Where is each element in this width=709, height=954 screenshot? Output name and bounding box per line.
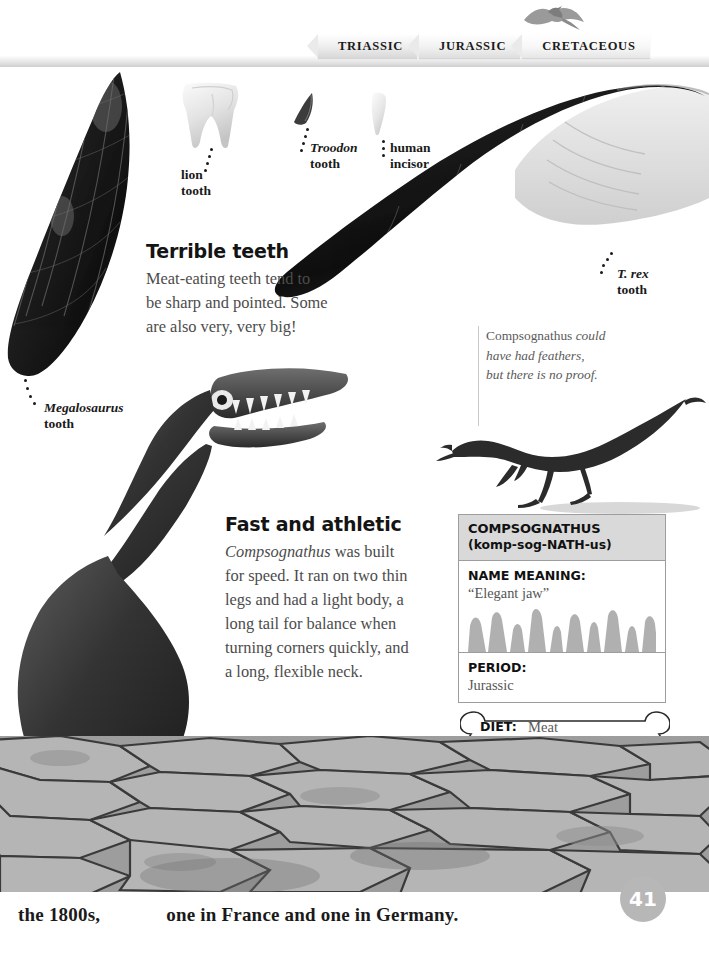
fact-period-label: PERIOD: bbox=[468, 660, 656, 675]
page-number-value: 41 bbox=[629, 887, 657, 911]
footer-running-text: the 1800s,one in France and one in Germa… bbox=[18, 904, 458, 926]
fact-box-header: COMPSOGNATHUS (komp-sog-NATH-us) bbox=[459, 515, 665, 561]
terrible-teeth-line-3: are also very, very big! bbox=[146, 315, 296, 339]
terrible-teeth-line-2: be sharp and pointed. Some bbox=[146, 291, 328, 315]
fast-athletic-l1rest: was built bbox=[331, 542, 395, 561]
terrible-teeth-heading: Terrible teeth bbox=[146, 240, 289, 262]
label-trex-genus: T. rex bbox=[617, 266, 649, 281]
fact-period: PERIOD: Jurassic bbox=[459, 652, 665, 702]
geologic-period-tabs: TRIASSIC JURASSIC CRETACEOUS bbox=[318, 34, 652, 58]
fast-athletic-line-6: a long, flexible neck. bbox=[225, 660, 363, 684]
footer-text-left: the 1800s, bbox=[18, 904, 100, 925]
cracked-earth-ground-photo bbox=[0, 736, 709, 892]
lion-tooth-photo bbox=[176, 82, 246, 150]
fact-box-pronunciation: (komp-sog-NATH-us) bbox=[468, 537, 656, 553]
fast-athletic-line-1: Compsognathus was built bbox=[225, 540, 394, 564]
fact-name-meaning-value: “Elegant jaw” bbox=[468, 583, 656, 602]
fact-diet-value: Meat bbox=[528, 719, 558, 736]
feather-caption-genus: Compsognathus bbox=[486, 328, 572, 343]
period-tab-cretaceous[interactable]: CRETACEOUS bbox=[522, 34, 649, 58]
page-number-badge: 41 bbox=[620, 876, 666, 922]
terrible-teeth-line-1: Meat-eating teeth tend to bbox=[146, 267, 310, 291]
label-lion-tooth: lion tooth bbox=[181, 167, 211, 199]
fact-period-value: Jurassic bbox=[468, 675, 656, 694]
fact-diet-label: DIET: bbox=[480, 719, 517, 734]
fast-athletic-line-4: long tail for balance when bbox=[225, 612, 396, 636]
page-footer: the 1800s,one in France and one in Germa… bbox=[0, 892, 709, 954]
feather-caption: Compsognathus could have had feathers, b… bbox=[486, 326, 686, 385]
period-tab-jurassic[interactable]: JURASSIC bbox=[419, 34, 520, 58]
fast-athletic-line-2: for speed. It ran on two thin bbox=[225, 564, 408, 588]
fast-athletic-heading: Fast and athletic bbox=[225, 513, 402, 535]
fact-name-meaning: NAME MEANING: “Elegant jaw” bbox=[459, 561, 665, 652]
label-lion-line1: lion bbox=[181, 167, 203, 182]
megalosaurus-tooth-photo bbox=[2, 66, 152, 376]
fact-name-meaning-label: NAME MEANING: bbox=[468, 568, 656, 583]
fast-athletic-line-3: legs and had a light body, a bbox=[225, 588, 404, 612]
fast-athletic-genus: Compsognathus bbox=[225, 542, 331, 561]
feather-caption-l1rest: could bbox=[572, 328, 605, 343]
compsognathus-small-illustration bbox=[430, 395, 709, 515]
footer-text-right: one in France and one in Germany. bbox=[166, 904, 458, 925]
pterosaur-silhouette-icon bbox=[518, 0, 588, 34]
period-tab-triassic[interactable]: TRIASSIC bbox=[318, 34, 417, 58]
fact-box-name: COMPSOGNATHUS bbox=[468, 521, 656, 537]
teeth-divider-graphic bbox=[468, 608, 656, 652]
fact-box: COMPSOGNATHUS (komp-sog-NATH-us) NAME ME… bbox=[458, 514, 666, 703]
label-trex-word-tooth: tooth bbox=[617, 282, 647, 297]
book-page: TRIASSIC JURASSIC CRETACEOUS bbox=[0, 0, 709, 954]
fast-athletic-line-5: turning corners quickly, and bbox=[225, 636, 409, 660]
label-lion-line2: tooth bbox=[181, 183, 211, 198]
label-trex-tooth: T. rex tooth bbox=[617, 266, 649, 298]
feather-caption-line3: but there is no proof. bbox=[486, 367, 598, 382]
feather-caption-line2: have had feathers, bbox=[486, 348, 585, 363]
